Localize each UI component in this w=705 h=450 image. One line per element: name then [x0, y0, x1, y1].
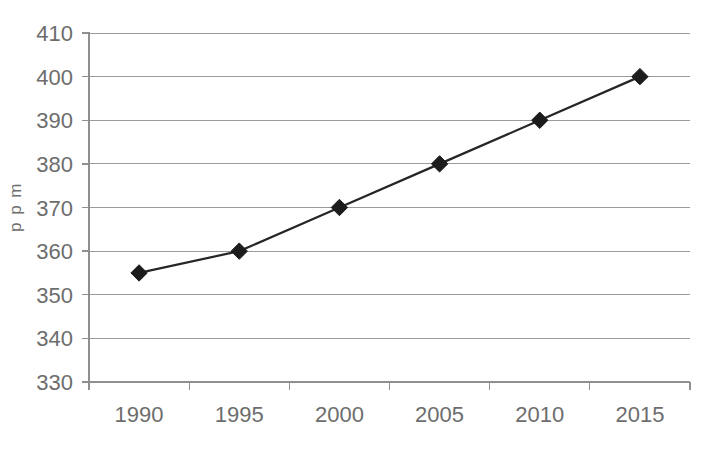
x-axis-tick-label: 2010 — [515, 402, 564, 427]
chart-container: 330340350360370380390400410 199019952000… — [0, 0, 705, 450]
y-axis-tick-label: 390 — [36, 108, 73, 133]
x-axis-tick-label: 2000 — [315, 402, 364, 427]
y-axis-tick-label: 370 — [36, 196, 73, 221]
y-axis-tick-label: 330 — [36, 370, 73, 395]
y-axis-tick-label: 340 — [36, 326, 73, 351]
y-axis-tick-label: 350 — [36, 283, 73, 308]
y-axis-title: p p m — [6, 182, 25, 232]
x-axis-tick-label: 1995 — [215, 402, 264, 427]
y-axis-tick-label: 380 — [36, 152, 73, 177]
y-axis-tick-label: 410 — [36, 21, 73, 46]
x-axis-tick-label: 2005 — [415, 402, 464, 427]
y-axis-tick-label: 360 — [36, 239, 73, 264]
y-axis-tick-label: 400 — [36, 65, 73, 90]
y-axis-tick-labels-group: 330340350360370380390400410 — [36, 21, 73, 395]
line-chart: 330340350360370380390400410 199019952000… — [0, 0, 705, 450]
x-axis-tick-label: 2015 — [615, 402, 664, 427]
x-axis-tick-label: 1990 — [115, 402, 164, 427]
